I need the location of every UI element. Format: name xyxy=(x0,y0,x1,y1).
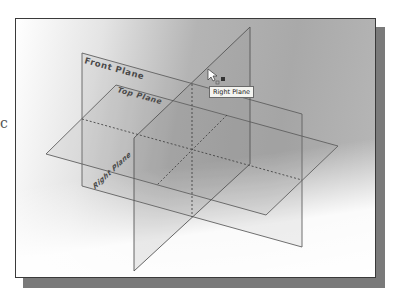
graphics-viewport[interactable]: Front Plane Top Plane Right Plane Right … xyxy=(15,18,376,278)
right-plane-tooltip: Right Plane xyxy=(209,86,254,98)
datum-planes-scene: Front Plane Top Plane Right Plane xyxy=(16,19,376,278)
stray-text-fragment: c xyxy=(0,115,8,131)
